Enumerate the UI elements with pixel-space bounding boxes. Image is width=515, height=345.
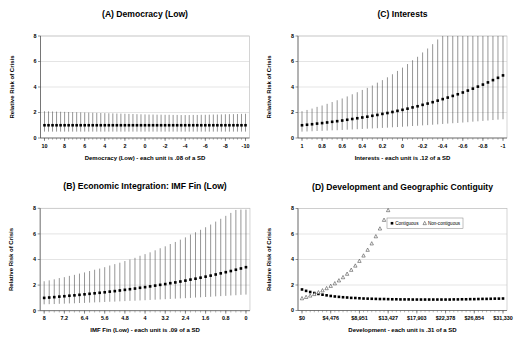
- x-tick-label: 0: [144, 143, 147, 149]
- x-tick-label: $22,378: [436, 315, 456, 321]
- x-tick-label: 10: [42, 143, 48, 149]
- y-tick-label: 0: [33, 308, 36, 314]
- legend: ContiguousNon-contiguous: [387, 218, 463, 229]
- figure-grid: 024681086420-2-4-6-8-10(A) Democracy (Lo…: [0, 0, 515, 345]
- x-tick-label: 0.8: [222, 315, 230, 321]
- legend-label: Non-contiguous: [428, 221, 461, 226]
- y-tick-label: 6: [33, 231, 36, 237]
- x-tick-label: $17,903: [407, 315, 427, 321]
- y-tick-label: 6: [291, 58, 294, 64]
- y-tick-label: 0: [291, 307, 294, 313]
- y-tick-label: 6: [291, 231, 294, 237]
- x-tick-label: -0.4: [438, 143, 447, 149]
- panel-development-contiguity: 02468$0$4,476$8,951$13,427$17,903$22,378…: [258, 172, 515, 345]
- x-tick-label: $8,951: [351, 315, 368, 321]
- x-tick-label: 4: [103, 143, 106, 149]
- y-tick-label: 8: [291, 205, 294, 211]
- y-tick-label: 8: [34, 33, 37, 39]
- x-tick-label: 8: [63, 143, 66, 149]
- x-tick-label: 8: [43, 315, 46, 321]
- panel-a-xaxis-title: Democracy (Low) - each unit is .08 of a …: [85, 155, 206, 161]
- y-tick-label: 4: [291, 256, 294, 262]
- x-tick-label: 0.8: [318, 143, 326, 149]
- y-tick-label: 0: [34, 135, 37, 141]
- x-tick-label: -1: [501, 143, 506, 149]
- panel-d-title: (D) Development and Geographic Contiguit…: [312, 182, 493, 192]
- y-tick-label: 2: [291, 109, 294, 115]
- y-tick-label: 2: [34, 109, 37, 115]
- error-bars: [44, 210, 246, 305]
- x-tick-label: 6: [83, 143, 86, 149]
- x-tick-label: 2: [123, 143, 126, 149]
- y-tick-label: 6: [34, 58, 37, 64]
- panel-imf-fin-low: 0246887.26.45.64.843.22.41.60.80(B) Econ…: [0, 172, 258, 345]
- series-non-contiguous: [300, 208, 390, 299]
- error-bars: [45, 111, 246, 131]
- x-tick-label: $13,427: [378, 315, 398, 321]
- x-tick-label: -0.6: [458, 143, 467, 149]
- x-tick-label: 0.2: [379, 143, 387, 149]
- x-tick-label: -0.8: [478, 143, 487, 149]
- x-tick-label: 4.8: [121, 315, 129, 321]
- panel-c-yaxis-title: Relative Risk of Crisis: [266, 55, 272, 119]
- x-tick-label: -10: [242, 143, 250, 149]
- x-tick-label: 5.6: [101, 315, 109, 321]
- y-tick-label: 2: [291, 282, 294, 288]
- error-bars: [302, 36, 503, 132]
- x-tick-label: -6: [203, 143, 208, 149]
- x-tick-label: $0: [299, 315, 305, 321]
- panel-c-xaxis-title: Interests - each unit is .12 of a SD: [355, 155, 451, 161]
- x-tick-label: 1: [301, 143, 304, 149]
- x-tick-label: 1.6: [202, 315, 210, 321]
- y-tick-label: 4: [34, 84, 37, 90]
- chart-a: 024681086420-2-4-6-8-10(A) Democracy (Lo…: [0, 0, 258, 172]
- x-tick-label: 4: [144, 315, 147, 321]
- panel-d-xaxis-title: Development - each unit is .31 of a SD: [348, 327, 457, 333]
- x-tick-label: 0: [244, 315, 247, 321]
- x-tick-label: $31,330: [493, 315, 513, 321]
- y-tick-label: 8: [33, 205, 36, 211]
- x-tick-label: 3.2: [161, 315, 169, 321]
- y-tick-label: 0: [291, 135, 294, 141]
- panel-b-yaxis-title: Relative Risk of Crisis: [8, 227, 14, 291]
- x-tick-label: 0.4: [359, 143, 367, 149]
- x-tick-label: 6.4: [81, 315, 89, 321]
- x-tick-label: 0.6: [338, 143, 346, 149]
- x-tick-label: 2.4: [182, 315, 190, 321]
- panel-interests: 0246810.80.60.40.20-0.2-0.4-0.6-0.8-1(C)…: [258, 0, 515, 172]
- x-tick-label: -4: [183, 143, 188, 149]
- y-tick-label: 8: [291, 33, 294, 39]
- chart-b: 0246887.26.45.64.843.22.41.60.80(B) Econ…: [0, 172, 258, 345]
- y-tick-label: 2: [33, 282, 36, 288]
- panel-democracy-low: 024681086420-2-4-6-8-10(A) Democracy (Lo…: [0, 0, 258, 172]
- x-tick-label: -0.2: [418, 143, 427, 149]
- panel-a-title: (A) Democracy (Low): [102, 9, 188, 19]
- series-points: [43, 124, 247, 127]
- panel-b-xaxis-title: IMF Fin (Low) - each unit is .09 of a SD: [90, 327, 200, 333]
- panel-c-title: (C) Interests: [377, 9, 427, 19]
- y-tick-label: 4: [33, 256, 36, 262]
- gridlines: [41, 36, 250, 113]
- chart-c: 0246810.80.60.40.20-0.2-0.4-0.6-0.8-1(C)…: [258, 0, 515, 172]
- x-tick-label: $4,476: [322, 315, 339, 321]
- x-tick-label: 7.2: [61, 315, 69, 321]
- panel-b-title: (B) Economic Integration: IMF Fin (Low): [63, 181, 227, 191]
- chart-d: 02468$0$4,476$8,951$13,427$17,903$22,378…: [258, 172, 515, 345]
- x-tick-label: -8: [223, 143, 228, 149]
- y-tick-label: 4: [291, 84, 294, 90]
- panel-d-yaxis-title: Relative Risk of Crisis: [266, 227, 272, 291]
- legend-label: Contiguous: [395, 221, 419, 226]
- panel-a-yaxis-title: Relative Risk of Crisis: [9, 55, 15, 119]
- x-tick-label: $26,854: [465, 315, 485, 321]
- x-tick-label: 0: [401, 143, 404, 149]
- x-tick-label: -2: [163, 143, 168, 149]
- series-contiguous: [301, 288, 505, 301]
